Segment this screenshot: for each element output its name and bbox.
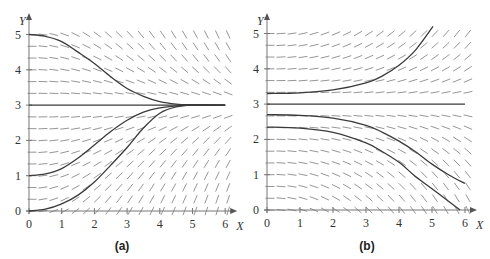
slope-segment	[116, 43, 123, 49]
slope-segment	[365, 115, 374, 116]
slope-segment	[192, 126, 200, 131]
slope-segment	[226, 172, 230, 180]
slope-segment	[431, 137, 439, 141]
slope-segment	[376, 161, 384, 166]
slope-segment	[137, 80, 145, 83]
slope-segment	[137, 67, 145, 72]
slope-segment	[104, 68, 112, 72]
slope-segment	[399, 195, 405, 202]
slope-segment	[365, 172, 373, 177]
y-tick-label: 1	[15, 169, 21, 183]
slope-segment	[105, 44, 112, 49]
slope-segment	[183, 195, 187, 203]
slope-segment	[149, 184, 154, 192]
y-tick-label: 3	[253, 97, 259, 111]
slope-segment	[38, 187, 47, 188]
slope-segment	[160, 55, 166, 61]
slope-segment	[214, 137, 220, 143]
slope-segment	[126, 93, 135, 95]
slope-segment	[288, 197, 297, 199]
slope-segment	[49, 33, 58, 35]
slope-segment	[454, 171, 460, 178]
slope-segment	[138, 172, 144, 179]
slope-segment	[226, 160, 230, 168]
slope-segment	[82, 68, 91, 71]
slope-segment	[171, 149, 177, 156]
slope-segment	[49, 151, 58, 152]
slope-segment	[126, 127, 134, 130]
slope-segment	[203, 137, 209, 143]
slope-segment	[332, 150, 341, 152]
slope-segment	[321, 116, 330, 117]
slope-segment	[82, 93, 91, 94]
slope-segment	[227, 183, 230, 191]
slope-segment	[160, 160, 166, 167]
slope-segment	[365, 92, 374, 93]
slope-segment	[310, 44, 319, 46]
slope-segment	[38, 152, 47, 153]
slope-segment	[94, 32, 101, 37]
slope-segment	[203, 67, 209, 73]
slope-segment	[191, 116, 200, 119]
slope-segment	[150, 195, 154, 203]
slope-segment	[160, 43, 166, 50]
y-tick-label: 2	[15, 133, 21, 147]
slope-segment	[398, 43, 405, 48]
slope-segment	[410, 30, 417, 36]
slope-segment	[214, 79, 221, 84]
slope-segment	[321, 150, 330, 152]
slope-segment	[453, 91, 462, 93]
slope-segment	[398, 92, 407, 93]
slope-segment	[321, 68, 330, 70]
slope-segment	[192, 79, 200, 84]
slope-segment	[376, 80, 385, 82]
slope-segment	[376, 138, 384, 141]
slope-segment	[387, 115, 396, 116]
slope-segment	[193, 172, 197, 180]
slope-segment	[387, 43, 395, 48]
slope-segment	[288, 151, 297, 152]
slope-segment	[409, 92, 418, 93]
slope-segment	[354, 196, 361, 201]
slope-segment	[38, 163, 47, 164]
slope-segment	[442, 79, 450, 82]
slope-segment	[432, 171, 438, 178]
slope-segment	[149, 31, 154, 38]
slope-segment	[225, 137, 231, 144]
slope-segment	[215, 172, 219, 180]
slope-segment	[205, 183, 209, 191]
slope-segment	[49, 186, 58, 188]
slope-segment	[442, 54, 449, 59]
slope-segment	[172, 195, 176, 203]
slope-segment	[343, 184, 351, 189]
slope-segment	[148, 138, 155, 143]
x-tick-label: 0	[264, 216, 270, 230]
slope-segment	[138, 149, 145, 155]
slope-segment	[115, 138, 123, 142]
slope-segment	[94, 196, 100, 202]
slope-segment	[49, 69, 58, 70]
x-tick-label: 1	[297, 216, 303, 230]
slope-segment	[343, 92, 352, 93]
slope-segment	[104, 139, 112, 143]
slope-segment	[226, 42, 230, 50]
slope-segment	[50, 198, 59, 201]
slope-segment	[299, 174, 308, 176]
slope-segment	[147, 92, 156, 94]
slope-segment	[332, 56, 341, 58]
slope-segment	[71, 139, 80, 141]
slope-segment	[455, 194, 460, 202]
slope-segment	[72, 185, 80, 189]
slope-segment	[61, 186, 69, 190]
slope-segment	[49, 163, 58, 165]
slope-segment	[354, 31, 362, 35]
slope-segment	[398, 115, 407, 116]
x-tick-label: 2	[91, 217, 97, 231]
slope-segment	[161, 184, 166, 192]
slope-segment	[354, 80, 363, 82]
slope-segment	[321, 32, 329, 35]
x-tick-label: 3	[124, 217, 130, 231]
slope-segment	[82, 139, 91, 142]
slope-segment	[169, 92, 178, 94]
slope-segment	[104, 127, 113, 129]
